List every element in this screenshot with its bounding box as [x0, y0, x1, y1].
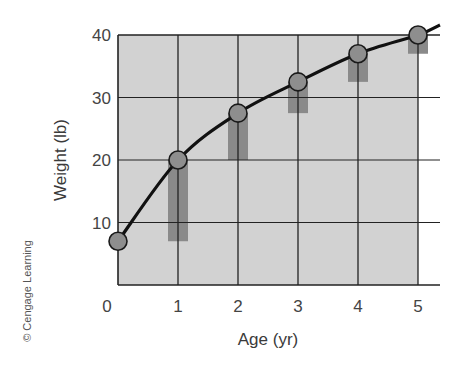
data-point-marker	[289, 73, 307, 91]
x-tick-label: 4	[353, 297, 362, 316]
copyright-credit: © Cengage Learning	[21, 240, 33, 342]
x-tick-label: 3	[293, 297, 302, 316]
y-tick-label: 30	[92, 89, 111, 108]
y-tick-label: 20	[92, 151, 111, 170]
x-axis-title: Age (yr)	[238, 330, 298, 349]
y-tick-label: 10	[92, 214, 111, 233]
y-tick-label: 40	[92, 26, 111, 45]
data-point-marker	[109, 232, 127, 250]
x-axis-ticks: 012345	[102, 297, 422, 316]
growth-chart: 012345 10203040 0 Age (yr) Weight (lb) ©…	[0, 0, 465, 376]
data-point-marker	[229, 104, 247, 122]
x-tick-label: 5	[413, 297, 422, 316]
x-tick-label: 2	[233, 297, 242, 316]
data-point-marker	[169, 151, 187, 169]
x-tick-label: 0	[102, 297, 111, 316]
y-axis-title: Weight (lb)	[51, 119, 70, 201]
y-axis-ticks: 10203040	[92, 26, 111, 233]
data-point-marker	[409, 26, 427, 44]
data-point-marker	[349, 45, 367, 63]
x-tick-label: 1	[173, 297, 182, 316]
